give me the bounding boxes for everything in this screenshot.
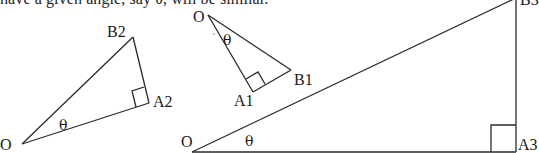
- right-angle-marker-a3: [491, 125, 516, 152]
- vertex-label-a2: A2: [153, 93, 173, 110]
- vertex-label-b3: B3: [520, 0, 539, 8]
- dot-mark: [213, 33, 214, 34]
- triangle-2: O B2 A2 θ: [0, 23, 173, 153]
- vertex-label-b1: B1: [294, 71, 313, 88]
- vertex-label-o: O: [181, 133, 193, 150]
- angle-label-theta: θ: [245, 133, 253, 149]
- vertex-label-o: O: [193, 8, 205, 25]
- vertex-label-a1: A1: [234, 92, 254, 109]
- vertex-label-a3: A3: [518, 136, 538, 153]
- hypotenuse-o-b2: [22, 37, 133, 144]
- vertex-label-b2: B2: [107, 23, 126, 40]
- triangle-1: O B1 A1 θ: [193, 8, 313, 109]
- side-b2-a2: [133, 37, 149, 103]
- side-o-a2: [22, 103, 149, 144]
- side-o-a1: [208, 15, 253, 92]
- vertex-label-o: O: [0, 136, 12, 153]
- right-angle-marker-a2: [132, 87, 144, 107]
- right-angle-marker-a1: [246, 72, 265, 84]
- hypotenuse-o-b1: [208, 15, 291, 70]
- similar-triangles-diagram: O B2 A2 θ O B1 A1 θ O B3 A3 θ: [0, 0, 539, 153]
- hypotenuse-o-b3: [192, 0, 516, 152]
- triangle-3: O B3 A3 θ: [181, 0, 539, 153]
- angle-label-theta: θ: [59, 117, 67, 133]
- angle-label-theta: θ: [223, 32, 231, 48]
